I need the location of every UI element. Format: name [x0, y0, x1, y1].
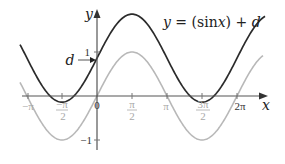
x-tick-label-3pi-over-2-den: 2	[200, 110, 206, 122]
equation-eq: = (sin	[171, 14, 218, 30]
equation-d: d	[252, 14, 261, 30]
x-tick-label-pi-over-2-den: 2	[129, 110, 135, 122]
x-tick-label-neg-pi-over-2-num: −π	[56, 98, 68, 110]
x-tick-label-neg-pi: −π	[22, 100, 34, 112]
y-tick-label-neg1: −1	[80, 134, 92, 146]
x-tick-label-pi-over-2-num: π	[129, 98, 135, 110]
x-tick-label-2pi: 2π	[234, 100, 246, 112]
equation-close: ) +	[226, 14, 252, 30]
x-tick-label-3pi-over-2-num: 3π	[197, 98, 209, 110]
x-tick-label-neg-pi-over-2-den: 2	[60, 110, 66, 122]
y-axis-arrow-icon	[94, 9, 101, 18]
x-tick-label-zero: 0	[94, 99, 100, 111]
sine-graph: 1 −1 −π −π 2 0 π 2 π 3π 2 2π x y d y = (…	[0, 0, 285, 164]
equation-x: x	[218, 14, 226, 30]
equation-label: y = (sinx) + d	[162, 14, 261, 30]
x-tick-label-pi: π	[163, 100, 169, 112]
x-axis-label: x	[262, 97, 270, 113]
shift-d-label: d	[66, 52, 75, 68]
y-tick-label-1: 1	[85, 46, 91, 58]
y-axis-label: y	[84, 6, 94, 22]
